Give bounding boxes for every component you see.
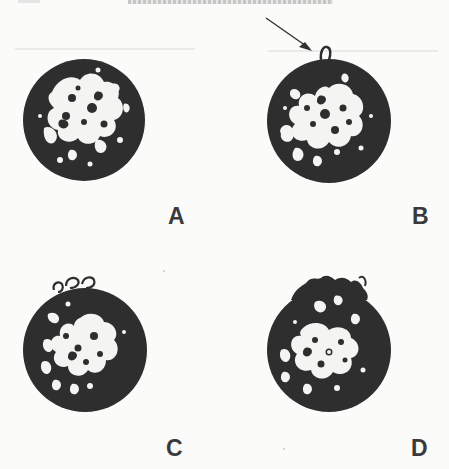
cell-image-c bbox=[0, 230, 224, 469]
panel-c: C bbox=[0, 230, 224, 460]
cell-image-d bbox=[225, 230, 449, 469]
panel-label-b: B bbox=[412, 205, 429, 228]
cell-image-b bbox=[225, 0, 449, 230]
panel-a: A bbox=[0, 0, 224, 230]
cell-image-a bbox=[0, 0, 224, 230]
panel-label-c: C bbox=[166, 437, 183, 460]
print-speck bbox=[163, 270, 165, 272]
panel-label-d: D bbox=[411, 437, 428, 460]
arrow-icon bbox=[266, 18, 312, 51]
print-speck bbox=[283, 448, 285, 450]
panel-d: D bbox=[225, 230, 449, 460]
panel-label-a: A bbox=[168, 205, 185, 228]
panel-b: B bbox=[225, 0, 449, 230]
